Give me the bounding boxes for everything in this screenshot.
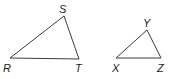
geometry-figure: R S T X Y Z — [0, 0, 171, 79]
vertex-label-y: Y — [143, 17, 151, 29]
vertex-label-x: X — [111, 62, 120, 74]
vertex-label-t: T — [75, 62, 83, 74]
triangle-rst — [10, 16, 79, 59]
vertex-label-s: S — [59, 3, 67, 15]
vertex-label-z: Z — [156, 62, 165, 74]
triangle-xyz — [116, 30, 161, 58]
vertex-label-r: R — [3, 62, 11, 74]
